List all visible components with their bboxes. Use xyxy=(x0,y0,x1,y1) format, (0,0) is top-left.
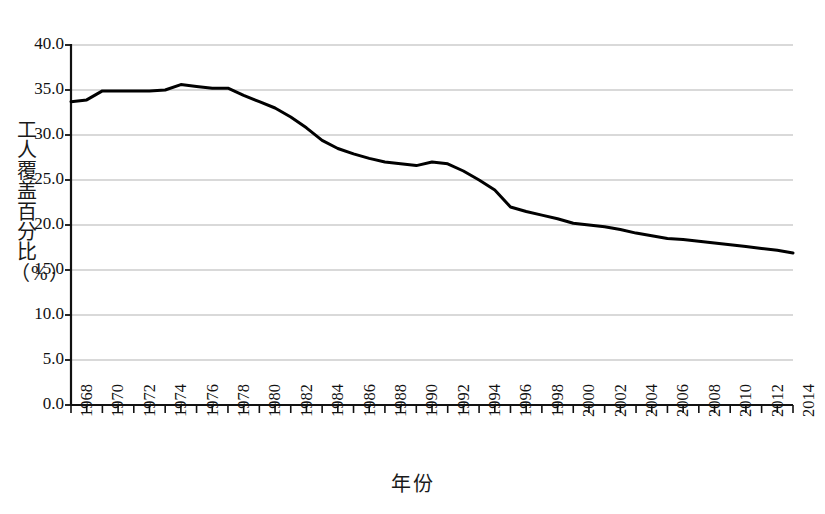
x-tick-label: 1990 xyxy=(422,384,442,417)
x-tick-label: 1994 xyxy=(485,384,505,417)
data-series-line xyxy=(71,85,793,253)
x-tick-label: 2002 xyxy=(611,384,631,417)
x-tick-label: 1986 xyxy=(360,384,380,417)
x-tick-label: 1996 xyxy=(516,384,536,417)
x-tick-label: 2000 xyxy=(579,384,599,417)
x-tick-label: 1998 xyxy=(548,384,568,417)
x-tick-label: 1988 xyxy=(391,384,411,417)
x-tick-label: 1982 xyxy=(297,384,317,417)
x-tick-label: 1978 xyxy=(234,384,254,417)
x-tick-label: 2006 xyxy=(673,384,693,417)
x-tick-label: 1968 xyxy=(77,384,97,417)
x-tick-label: 2012 xyxy=(768,384,788,417)
x-tick-label: 1976 xyxy=(203,384,223,417)
x-tick-label: 1972 xyxy=(140,384,160,417)
x-tick-label: 1974 xyxy=(171,384,191,417)
x-tick-label: 2014 xyxy=(799,384,819,417)
chart-figure: 工人覆盖百分比（%） 40.035.030.025.020.015.010.05… xyxy=(0,0,825,514)
x-tick-label: 1970 xyxy=(108,384,128,417)
x-axis-title-wrap: 年份 xyxy=(0,468,825,497)
x-tick-label: 2008 xyxy=(705,384,725,417)
x-tick-label: 1984 xyxy=(328,384,348,417)
x-tick-label: 2010 xyxy=(736,384,756,417)
x-tick-label: 1992 xyxy=(454,384,474,417)
x-tick-label: 1980 xyxy=(265,384,285,417)
x-tick-label: 2004 xyxy=(642,384,662,417)
x-axis-title: 年份 xyxy=(391,468,435,497)
plot-area xyxy=(0,0,825,514)
